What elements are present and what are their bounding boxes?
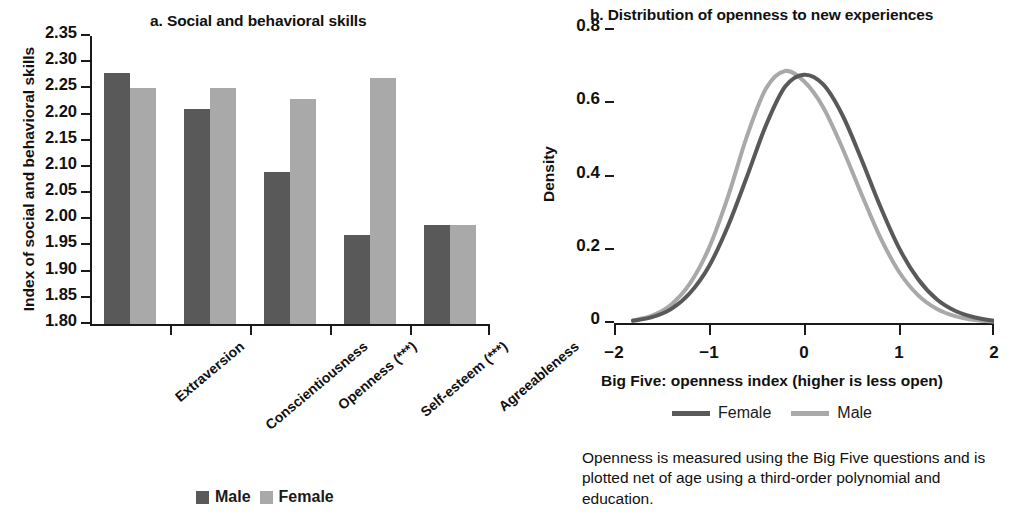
y-axis-tick: 2.10 xyxy=(81,165,90,167)
panel-a-legend: MaleFemale xyxy=(196,488,334,506)
legend-label: Male xyxy=(215,488,251,506)
x-axis-category-label: Self-esteem (***) xyxy=(417,338,510,420)
legend-label: Female xyxy=(718,404,771,422)
y-axis-tick: 0 xyxy=(605,321,614,323)
y-axis-tick-label: 2.30 xyxy=(45,49,77,68)
y-axis-tick-label: 0.8 xyxy=(576,16,600,36)
y-axis-tick-label: 0 xyxy=(591,309,600,329)
y-axis-tick-label: 1.85 xyxy=(45,285,77,304)
x-axis-tick-label: 1 xyxy=(894,343,903,363)
x-axis-tick-label: 2 xyxy=(989,343,998,363)
bar xyxy=(344,235,370,324)
bar xyxy=(184,109,210,324)
x-axis-tick-label: 0 xyxy=(799,343,808,363)
legend-swatch-icon xyxy=(260,491,273,504)
bar xyxy=(450,225,476,324)
y-axis-tick-label: 1.95 xyxy=(45,232,77,251)
panel-b-footnote: Openness is measured using the Big Five … xyxy=(582,448,1012,509)
bar xyxy=(424,225,450,324)
legend-swatch-icon xyxy=(196,491,209,504)
y-axis-tick-label: 2.00 xyxy=(45,206,77,225)
legend-item: Female xyxy=(672,404,771,422)
bar xyxy=(130,88,156,324)
y-axis-tick: 0.8 xyxy=(605,28,614,30)
y-axis-tick-label: 0.4 xyxy=(576,163,600,183)
bar-chart-plot-area: 1.801.851.901.952.002.052.102.152.202.25… xyxy=(90,36,490,326)
x-axis-tick xyxy=(410,326,412,335)
y-axis-tick-label: 0.2 xyxy=(576,236,600,256)
panel-b-x-axis-label: Big Five: openness index (higher is less… xyxy=(522,372,1022,390)
bar xyxy=(104,73,130,324)
x-axis-tick xyxy=(170,326,172,335)
legend-label: Male xyxy=(837,404,872,422)
bar xyxy=(210,88,236,324)
bar xyxy=(370,78,396,324)
legend-line-icon xyxy=(672,411,710,416)
panel-b-title: b. Distribution of openness to new exper… xyxy=(590,6,933,24)
legend-item: Female xyxy=(260,488,334,506)
x-axis-tick xyxy=(804,325,806,335)
y-axis-tick-label: 2.20 xyxy=(45,102,77,121)
y-axis-tick-label: 2.05 xyxy=(45,180,77,199)
legend-item: Male xyxy=(791,404,872,422)
y-axis-tick-label: 2.25 xyxy=(45,75,77,94)
y-axis-tick-label: 2.10 xyxy=(45,154,77,173)
y-axis-tick: 1.80 xyxy=(81,322,90,324)
panel-b-legend: FemaleMale xyxy=(522,404,1022,422)
y-axis-tick: 2.00 xyxy=(81,217,90,219)
x-axis-tick xyxy=(992,325,994,335)
y-axis-tick-label: 2.15 xyxy=(45,128,77,147)
y-axis-tick: 2.30 xyxy=(81,60,90,62)
panel-a-y-axis-label: Index of social and behavioral skills xyxy=(20,19,38,339)
y-axis-line xyxy=(90,36,92,326)
x-axis-tick xyxy=(614,325,616,335)
y-axis-tick: 0.2 xyxy=(605,248,614,250)
x-axis-tick xyxy=(488,326,490,335)
y-axis-tick: 1.85 xyxy=(81,296,90,298)
y-axis-tick: 2.20 xyxy=(81,113,90,115)
density-chart-plot-area: 00.20.40.60.8 −2−1012 xyxy=(614,30,994,325)
y-axis-tick: 2.25 xyxy=(81,86,90,88)
panel-b-y-axis-label: Density xyxy=(540,114,558,234)
bar xyxy=(264,172,290,324)
density-curve xyxy=(633,71,994,322)
density-curve xyxy=(633,75,994,321)
y-axis-tick: 2.15 xyxy=(81,139,90,141)
x-axis-tick xyxy=(330,326,332,335)
y-axis-tick: 1.90 xyxy=(81,270,90,272)
panel-openness-distribution: b. Distribution of openness to new exper… xyxy=(522,0,1022,522)
legend-item: Male xyxy=(196,488,251,506)
x-axis-tick xyxy=(899,325,901,335)
y-axis-tick: 1.95 xyxy=(81,243,90,245)
x-axis-line xyxy=(90,324,490,326)
y-axis-tick: 0.4 xyxy=(605,175,614,177)
y-axis-tick: 0.6 xyxy=(605,101,614,103)
legend-line-icon xyxy=(791,411,829,416)
x-axis-tick-label: −1 xyxy=(699,343,718,363)
y-axis-tick: 2.35 xyxy=(81,34,90,36)
y-axis-tick-label: 0.6 xyxy=(576,89,600,109)
bar xyxy=(290,99,316,324)
y-axis-tick: 2.05 xyxy=(81,191,90,193)
density-curves xyxy=(614,30,994,325)
panel-social-behavioral-skills: a. Social and behavioral skills Index of… xyxy=(0,0,522,522)
y-axis-tick-label: 2.35 xyxy=(45,23,77,42)
x-axis-category-label: Extraversion xyxy=(172,338,247,405)
x-axis-tick xyxy=(250,326,252,335)
panel-a-title: a. Social and behavioral skills xyxy=(150,12,367,30)
legend-label: Female xyxy=(279,488,334,506)
x-axis-tick-label: −2 xyxy=(604,343,623,363)
x-axis-tick xyxy=(709,325,711,335)
y-axis-tick-label: 1.80 xyxy=(45,311,77,330)
y-axis-tick-label: 1.90 xyxy=(45,259,77,278)
